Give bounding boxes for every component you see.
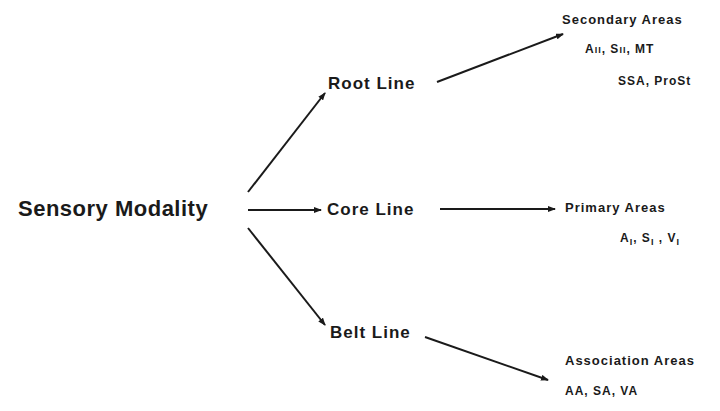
separator: , <box>654 231 667 245</box>
separator: , <box>633 231 642 245</box>
area-v1-subscript: I <box>676 237 680 247</box>
association-areas-label: Association Areas <box>565 353 695 368</box>
secondary-areas-examples-2: SSA, ProSt <box>618 74 691 88</box>
sensory-modality-label: Sensory Modality <box>18 196 208 221</box>
arrow-belt-to-association <box>425 337 548 380</box>
belt-line-node: Belt Line <box>330 323 411 343</box>
area-mt: MT <box>635 42 654 56</box>
sensory-modality-node: Sensory Modality <box>18 196 208 222</box>
area-a2-base: A <box>585 42 595 56</box>
area-aa-sa-va: AA, SA, VA <box>565 384 638 398</box>
core-line-label: Core Line <box>327 200 414 219</box>
association-areas-title: Association Areas <box>565 353 695 368</box>
secondary-areas-label: Secondary Areas <box>562 12 683 27</box>
area-a1-base: A <box>620 231 630 245</box>
separator: , <box>626 42 635 56</box>
arrow-source-to-belt <box>248 228 325 325</box>
area-ssa-prost: SSA, ProSt <box>618 74 691 88</box>
root-line-node: Root Line <box>328 74 415 94</box>
primary-areas-title: Primary Areas <box>565 200 666 215</box>
arrow-source-to-root <box>248 93 325 192</box>
belt-line-label: Belt Line <box>330 323 411 342</box>
secondary-areas-examples: AII, SII, MT <box>585 42 654 56</box>
primary-areas-label: Primary Areas <box>565 200 666 215</box>
core-line-node: Core Line <box>327 200 414 220</box>
primary-areas-examples: AI, SI , VI <box>620 231 680 247</box>
secondary-areas-title: Secondary Areas <box>562 12 683 27</box>
root-line-label: Root Line <box>328 74 415 93</box>
area-s1-base: S <box>642 231 651 245</box>
area-a2-mark: II <box>595 45 602 55</box>
arrow-root-to-secondary <box>437 34 563 82</box>
association-areas-examples: AA, SA, VA <box>565 384 638 398</box>
